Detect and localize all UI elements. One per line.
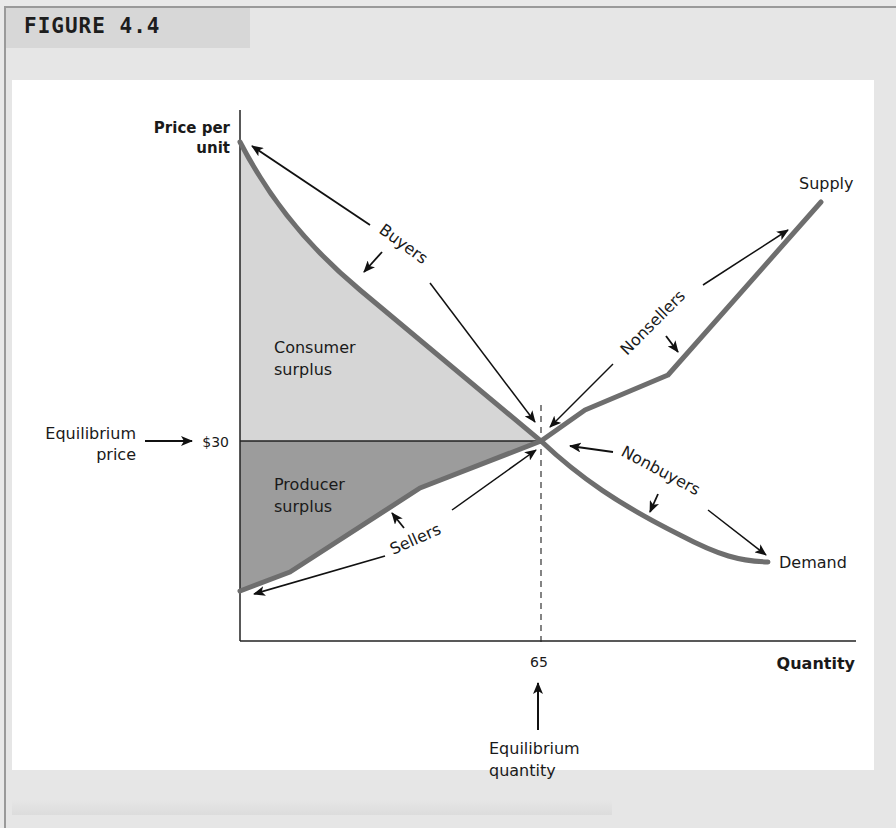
y-axis-label-line2: unit <box>196 139 230 157</box>
producer-surplus-label-line2: surplus <box>274 497 332 516</box>
y-axis-label-line1: Price per <box>154 119 231 137</box>
eq-qty-label-line2: quantity <box>489 761 556 780</box>
nonbuyers-label: Nonbuyers <box>618 442 703 499</box>
eq-qty-label-line1: Equilibrium <box>489 739 580 758</box>
nonsellers-arrow-curve <box>666 336 678 352</box>
supply-label: Supply <box>799 174 854 193</box>
nonsellers-arrow-equilibrium <box>550 364 613 427</box>
x-axis-label: Quantity <box>777 654 856 673</box>
quantity-tick-label: 65 <box>530 654 548 670</box>
sellers-arrow-curve <box>392 513 404 528</box>
nonsellers-label: Nonsellers <box>616 286 689 359</box>
nonbuyers-arrow-demand-end <box>708 510 766 555</box>
demand-label: Demand <box>779 553 847 572</box>
consumer-surplus-area <box>240 142 541 441</box>
price-tick-label: $30 <box>202 434 229 450</box>
buyers-arrow-curve <box>364 252 382 272</box>
producer-surplus-area <box>240 441 541 591</box>
consumer-surplus-label-line1: Consumer <box>274 338 356 357</box>
buyers-label: Buyers <box>376 220 432 268</box>
consumer-surplus-label-line2: surplus <box>274 360 332 379</box>
eq-price-label-line2: price <box>96 445 136 464</box>
nonbuyers-arrow-equilibrium <box>570 446 613 452</box>
producer-surplus-label-line1: Producer <box>274 475 345 494</box>
nonbuyers-arrow-curve <box>650 494 658 512</box>
sellers-label: Sellers <box>387 519 444 558</box>
eq-price-label-line1: Equilibrium <box>45 424 136 443</box>
